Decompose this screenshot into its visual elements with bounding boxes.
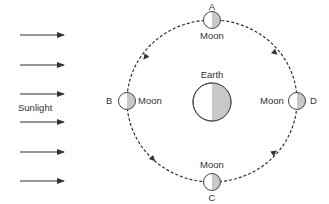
moon-a [204,12,221,29]
earth [193,83,231,121]
moon-d [289,93,306,110]
moon-b-letter: B [106,96,112,106]
moon-c-label: Moon [200,160,224,170]
moon-c-letter: C [209,193,216,203]
moon-b-label: Moon [138,96,162,106]
moon-b [119,93,136,110]
moon-d-letter: D [310,96,317,106]
moon-a-letter: A [209,2,215,12]
moon-d-label: Moon [260,96,284,106]
earth-shadow [212,83,231,121]
moon-c [204,174,221,191]
sunlight-label: Sunlight [18,103,52,113]
earth-label: Earth [201,70,224,80]
moon-a-label: Moon [200,31,224,41]
